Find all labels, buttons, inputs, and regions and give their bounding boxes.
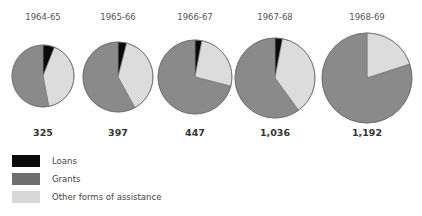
pie-year-label: 1968-69 <box>349 12 385 22</box>
pie-total-label: 447 <box>185 127 205 138</box>
pie-total-label: 397 <box>108 127 128 138</box>
legend-label-loans: Loans <box>52 156 77 166</box>
pie-year-label: 1965-66 <box>100 12 136 22</box>
legend-swatch-grants <box>12 173 40 185</box>
pie-1964-65: 1964-65325 <box>12 12 74 138</box>
pie-1968-69: 1968-691,192 <box>322 12 412 138</box>
pie-slice-grants <box>12 45 49 107</box>
legend-label-other: Other forms of assistance <box>52 192 161 202</box>
pie-year-label: 1967-68 <box>257 12 293 22</box>
legend-label-grants: Grants <box>52 174 80 184</box>
pie-year-label: 1964-65 <box>25 12 61 22</box>
legend-swatch-other <box>12 191 40 203</box>
pie-year-label: 1966-67 <box>177 12 213 22</box>
legend-swatch-loans <box>12 155 40 167</box>
legend-item-grants: Grants <box>12 170 161 188</box>
pie-1967-68: 1967-681,036 <box>235 12 315 138</box>
pie-chart-area: 1964-653251965-663971966-674471967-681,0… <box>0 0 422 150</box>
legend: Loans Grants Other forms of assistance <box>12 152 161 206</box>
pie-total-label: 325 <box>33 127 53 138</box>
pie-total-label: 1,036 <box>260 127 290 138</box>
pie-total-label: 1,192 <box>352 127 382 138</box>
legend-item-other: Other forms of assistance <box>12 188 161 206</box>
pie-1966-67: 1966-67447 <box>158 12 232 138</box>
pie-1965-66: 1965-66397 <box>83 12 153 138</box>
legend-item-loans: Loans <box>12 152 161 170</box>
